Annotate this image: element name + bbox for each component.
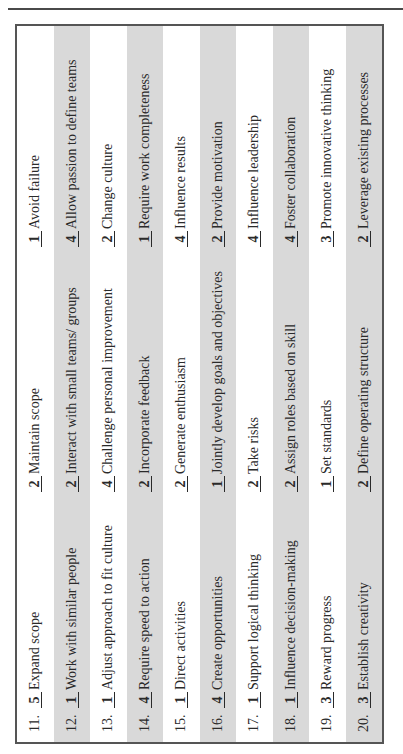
option-cell: 4Foster collaboration [283,26,299,247]
score-blank[interactable]: 1 [284,692,298,708]
score-blank[interactable]: 1 [247,692,261,708]
option-cell: 14.4Require speed to action [137,492,153,742]
option-cell: 4Influence results [173,26,189,247]
score-blank[interactable]: 4 [174,231,188,247]
option-cell: 17.1Support logical thinking [246,492,262,742]
score-blank[interactable]: 1 [65,692,79,708]
score-blank[interactable]: 4 [211,692,225,708]
item-number: 19. [319,710,335,732]
option-label: Influence decision-making [283,540,299,690]
option-cell: 2Take risks [246,247,262,492]
score-blank[interactable]: 3 [320,692,334,708]
score-blank[interactable]: 2 [138,476,152,492]
score-blank[interactable]: 1 [138,231,152,247]
option-cell: 4Influence leadership [246,26,262,247]
score-blank[interactable]: 1 [211,476,225,492]
option-label: Leverage existing processes [356,72,372,229]
score-blank[interactable]: 2 [65,476,79,492]
option-label: Incorporate feedback [137,355,153,474]
item-number: 18. [283,710,299,732]
score-blank[interactable]: 4 [65,231,79,247]
option-cell: 13.1Adjust approach to fit culture [100,492,116,742]
score-blank[interactable]: 3 [320,231,334,247]
item-number: 15. [173,710,189,732]
option-label: Influence leadership [246,115,262,229]
table-row: 18.1Influence decision-making2Assign rol… [273,26,310,742]
option-label: Influence results [173,136,189,229]
option-label: Maintain scope [27,388,43,474]
option-label: Foster collaboration [283,117,299,229]
option-cell: 2Assign roles based on skill [283,247,299,492]
item-number: 11. [27,710,43,732]
score-blank[interactable]: 3 [357,692,371,708]
item-number: 17. [246,710,262,732]
assessment-table: 11.5Expand scope2Maintain scope1Avoid fa… [15,24,384,744]
table-row: 15.1Direct activities2Generate enthusias… [163,26,200,742]
option-cell: 4Allow passion to define teams [64,26,80,247]
table-row: 12.1Work with similar people2Interact wi… [54,26,91,742]
table-row: 14.4Require speed to action2Incorporate … [127,26,164,742]
option-label: Reward progress [319,596,335,690]
table-row: 17.1Support logical thinking2Take risks4… [236,26,273,742]
item-number: 20. [356,710,372,732]
option-label: Provide motivation [210,121,226,229]
table-row: 19.3Reward progress1Set standards3Promot… [309,26,346,742]
score-blank[interactable]: 2 [357,476,371,492]
option-label: Create opportunities [210,576,226,690]
option-label: Expand scope [27,612,43,690]
option-label: Direct activities [173,601,189,690]
option-cell: 15.1Direct activities [173,492,189,742]
score-blank[interactable]: 4 [284,231,298,247]
header-rule [8,8,403,10]
score-blank[interactable]: 2 [28,476,42,492]
item-number: 16. [210,710,226,732]
item-number: 14. [137,710,153,732]
option-cell: 2Provide motivation [210,26,226,247]
option-label: Change culture [100,144,116,229]
option-cell: 12.1Work with similar people [64,492,80,742]
option-label: Take risks [246,417,262,474]
option-label: Define operating structure [356,327,372,474]
option-label: Interact with small teams/ groups [64,287,80,474]
option-cell: 18.1Influence decision-making [283,492,299,742]
score-blank[interactable]: 2 [101,231,115,247]
option-label: Establish creativity [356,582,372,690]
score-blank[interactable]: 4 [247,231,261,247]
option-cell: 1Avoid failure [27,26,43,247]
table-row: 13.1Adjust approach to fit culture4Chall… [90,26,127,742]
option-cell: 20.3Establish creativity [356,492,372,742]
score-blank[interactable]: 1 [28,231,42,247]
score-blank[interactable]: 5 [28,692,42,708]
score-blank[interactable]: 4 [101,476,115,492]
score-blank[interactable]: 1 [174,692,188,708]
option-label: Support logical thinking [246,554,262,690]
option-label: Allow passion to define teams [64,59,80,229]
option-cell: 2Generate enthusiasm [173,247,189,492]
option-cell: 1Require work completeness [137,26,153,247]
option-cell: 2Incorporate feedback [137,247,153,492]
option-label: Challenge personal improvement [100,288,116,474]
table-row: 20.3Establish creativity2Define operatin… [346,26,383,742]
option-cell: 2Change culture [100,26,116,247]
score-blank[interactable]: 4 [138,692,152,708]
score-blank[interactable]: 2 [211,231,225,247]
option-cell: 2Interact with small teams/ groups [64,247,80,492]
option-cell: 3Promote innovative thinking [319,26,335,247]
option-label: Assign roles based on skill [283,324,299,474]
option-cell: 2Define operating structure [356,247,372,492]
option-label: Set standards [319,400,335,474]
score-blank[interactable]: 1 [101,692,115,708]
option-cell: 4Challenge personal improvement [100,247,116,492]
option-cell: 1Set standards [319,247,335,492]
score-blank[interactable]: 2 [357,231,371,247]
option-cell: 11.5Expand scope [27,492,43,742]
score-blank[interactable]: 2 [247,476,261,492]
score-blank[interactable]: 2 [284,476,298,492]
option-label: Adjust approach to fit culture [100,525,116,690]
option-cell: 16.4Create opportunities [210,492,226,742]
option-label: Work with similar people [64,548,80,690]
score-blank[interactable]: 2 [174,476,188,492]
option-cell: 2Maintain scope [27,247,43,492]
option-label: Require speed to action [137,558,153,690]
score-blank[interactable]: 1 [320,476,334,492]
